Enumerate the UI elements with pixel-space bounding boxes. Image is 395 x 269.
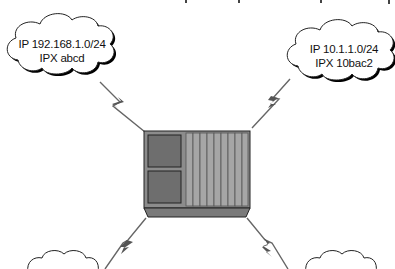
cloud-label-top-right: IP 10.1.1.0/24 IPX 10bac2 xyxy=(300,42,388,70)
router-slot-bottom xyxy=(148,171,181,203)
cloud-bottom-left xyxy=(28,251,99,269)
ip-network-label: IP 10.1.1.0/24 xyxy=(300,42,388,56)
router-icon[interactable] xyxy=(144,131,250,217)
ipx-network-label: IPX abcd xyxy=(14,51,110,65)
cutoff-text-fragments xyxy=(185,0,390,4)
router-base xyxy=(144,208,250,217)
cloud-label-top-left: IP 192.168.1.0/24 IPX abcd xyxy=(14,37,110,65)
ip-network-label: IP 192.168.1.0/24 xyxy=(14,37,110,51)
ipx-network-label: IPX 10bac2 xyxy=(300,56,388,70)
lightning-icon xyxy=(262,238,272,257)
router-stripes xyxy=(186,133,248,206)
lightning-icon xyxy=(120,240,133,254)
router-slot-top xyxy=(148,135,181,167)
serial-link-top-left xyxy=(100,82,145,132)
cloud-bottom-right xyxy=(306,251,377,269)
